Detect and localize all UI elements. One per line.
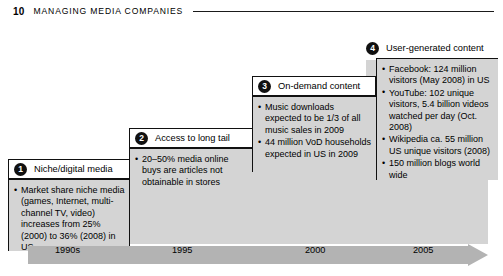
running-head: 10 MANAGING MEDIA COMPANIES xyxy=(0,0,503,22)
timeline-tick-2005: 2005 xyxy=(413,245,433,255)
callout-header-4[interactable]: 4 User-generated content xyxy=(361,38,497,58)
callout-body-3: Music downloads expected to be 1/3 of al… xyxy=(252,96,376,172)
list-item: 20–50% media online buys are articles no… xyxy=(135,154,249,188)
callout-header-1[interactable]: 1 Niche/digital media xyxy=(8,159,130,179)
callout-body-2: 20–50% media online buys are articles no… xyxy=(129,148,253,198)
book-title: MANAGING MEDIA COMPANIES xyxy=(34,6,184,16)
badge-number-1: 1 xyxy=(14,163,27,176)
callout-header-2[interactable]: 2 Access to long tail xyxy=(129,128,253,148)
list-item: 150 million blogs world wide xyxy=(382,158,494,181)
callout-title-1: Niche/digital media xyxy=(34,164,113,174)
staircase-diagram: 1 Niche/digital media Market share niche… xyxy=(0,22,503,276)
badge-number-2: 2 xyxy=(135,132,148,145)
list-item: Facebook: 124 million visitors (May 2008… xyxy=(382,64,494,87)
list-item: Wikipedia ca. 55 million US unique visit… xyxy=(382,134,494,157)
bullet-list-4: Facebook: 124 million visitors (May 2008… xyxy=(382,64,494,181)
bullet-list-3: Music downloads expected to be 1/3 of al… xyxy=(258,102,372,160)
callout-header-3[interactable]: 3 On-demand content xyxy=(252,76,376,96)
callout-title-4: User-generated content xyxy=(386,43,484,53)
timeline-tick-1990s: 1990s xyxy=(55,245,80,255)
bullet-list-2: 20–50% media online buys are articles no… xyxy=(135,154,249,188)
list-item: Music downloads expected to be 1/3 of al… xyxy=(258,102,372,136)
header-rule xyxy=(193,11,494,12)
callout-title-3: On-demand content xyxy=(278,81,360,91)
badge-number-4: 4 xyxy=(366,42,379,55)
callout-body-4: Facebook: 124 million visitors (May 2008… xyxy=(376,58,498,180)
list-item: 44 million VoD households expected in US… xyxy=(258,137,372,160)
callout-title-2: Access to long tail xyxy=(155,133,230,143)
badge-number-3: 3 xyxy=(258,80,271,93)
timeline-tick-1995: 1995 xyxy=(172,245,192,255)
callout-body-1: Market share niche media (games, Interne… xyxy=(8,179,130,251)
page-number: 10 xyxy=(13,6,25,17)
list-item: YouTube: 102 unique visitors, 5.4 billio… xyxy=(382,88,494,134)
timeline-tick-2000: 2000 xyxy=(305,245,325,255)
